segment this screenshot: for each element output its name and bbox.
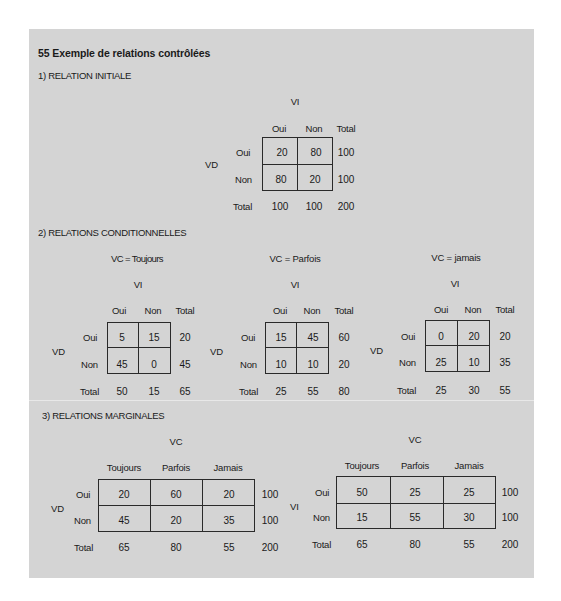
grand-total: 80 — [338, 386, 349, 397]
col-header: Toujours — [107, 462, 141, 473]
table-cell: 45 — [307, 332, 318, 343]
col-header: Total — [495, 304, 514, 315]
grand-total: 200 — [338, 201, 355, 212]
row-variable-label: VD — [370, 345, 383, 356]
grand-total: 200 — [262, 542, 279, 553]
col-variable-label: VI — [451, 278, 460, 289]
row-header: Oui — [241, 332, 255, 343]
col-header: Non — [306, 123, 323, 134]
table-cell: 25 — [463, 487, 474, 498]
section-heading-initial: 1) RELATION INITIALE — [38, 70, 131, 81]
col-total: 50 — [116, 386, 127, 397]
row-total: 100 — [502, 512, 519, 523]
totals-label: Total — [80, 386, 99, 397]
row-total: 100 — [338, 147, 355, 158]
row-variable-label: VD — [51, 503, 64, 514]
row-total: 60 — [338, 332, 349, 343]
totals-label: Total — [397, 385, 416, 396]
col-total: 80 — [170, 542, 181, 553]
col-header: Toujours — [345, 460, 379, 471]
col-header: Total — [336, 123, 355, 134]
table-cell: 20 — [468, 331, 479, 342]
totals-label: Total — [239, 386, 258, 397]
table-cell: 15 — [148, 332, 159, 343]
col-header: Total — [334, 305, 353, 316]
col-header: Total — [175, 305, 194, 316]
col-total: 100 — [272, 201, 289, 212]
row-total: 100 — [338, 174, 355, 185]
totals-label: Total — [312, 539, 331, 550]
col-header: Non — [465, 304, 482, 315]
row-total: 20 — [179, 332, 190, 343]
table-cell: 10 — [307, 359, 318, 370]
table-cell: 80 — [310, 147, 321, 158]
row-variable-label: VI — [290, 501, 299, 512]
row-total: 20 — [338, 359, 349, 370]
table-cell: 5 — [119, 332, 125, 343]
figure-title: 55 Exemple de relations contrôlées — [38, 47, 210, 59]
table-cell: 25 — [409, 487, 420, 498]
table-cell: 20 — [276, 147, 287, 158]
col-total: 55 — [307, 386, 318, 397]
col-header: Non — [304, 305, 321, 316]
section-heading-conditional: 2) RELATIONS CONDITIONNELLES — [38, 227, 186, 238]
table-cell: 35 — [223, 515, 234, 526]
col-total: 100 — [306, 201, 323, 212]
col-header: Jamais — [455, 460, 484, 471]
row-header: Non — [81, 359, 98, 370]
row-header: Non — [399, 357, 416, 368]
row-header: Oui — [83, 332, 97, 343]
col-total: 25 — [275, 386, 286, 397]
table-cell: 15 — [356, 512, 367, 523]
col-total: 25 — [435, 385, 446, 396]
col-header: Parfois — [162, 462, 190, 473]
col-header: Non — [145, 305, 162, 316]
totals-label: Total — [233, 201, 252, 212]
col-header: Jamais — [214, 462, 243, 473]
table-cell: 25 — [435, 357, 446, 368]
table-cell: 10 — [275, 359, 286, 370]
row-header: Non — [235, 174, 252, 185]
col-header: Oui — [273, 305, 287, 316]
col-variable-label: VC — [170, 436, 183, 447]
row-total: 100 — [502, 487, 519, 498]
col-variable-label: VC — [409, 434, 422, 445]
col-total: 80 — [409, 539, 420, 550]
table-cell: 0 — [438, 331, 444, 342]
row-header: Non — [240, 359, 257, 370]
totals-label: Total — [74, 542, 93, 553]
condition-label: VC = Toujours — [111, 253, 163, 264]
section-heading-marginal: 3) RELATIONS MARGINALES — [42, 410, 164, 421]
row-variable-label: VD — [210, 346, 223, 357]
row-header: Non — [313, 512, 330, 523]
col-header: Oui — [434, 304, 448, 315]
table-cell: 10 — [468, 357, 479, 368]
row-total: 100 — [262, 489, 279, 500]
table-cell: 80 — [275, 174, 286, 185]
row-header: Oui — [401, 331, 415, 342]
row-header: Oui — [76, 489, 90, 500]
grand-total: 200 — [502, 539, 519, 550]
col-variable-label: VI — [134, 279, 143, 290]
col-total: 65 — [356, 539, 367, 550]
grand-total: 55 — [499, 385, 510, 396]
table-cell: 30 — [463, 512, 474, 523]
col-total: 65 — [118, 542, 129, 553]
table-cell: 15 — [275, 332, 286, 343]
col-total: 55 — [463, 539, 474, 550]
table-cell: 20 — [309, 174, 320, 185]
table-cell: 50 — [356, 487, 367, 498]
col-variable-label: VI — [291, 96, 300, 107]
condition-label: VC = Parfois — [269, 253, 320, 264]
col-variable-label: VI — [291, 279, 300, 290]
row-total: 20 — [499, 331, 510, 342]
col-total: 15 — [148, 386, 159, 397]
row-total: 35 — [499, 357, 510, 368]
table-cell: 20 — [223, 489, 234, 500]
row-variable-label: VD — [205, 159, 218, 170]
col-total: 55 — [223, 542, 234, 553]
condition-label: VC = jamais — [431, 252, 480, 263]
row-total: 100 — [262, 515, 279, 526]
table-cell: 55 — [409, 512, 420, 523]
divider — [29, 400, 534, 401]
